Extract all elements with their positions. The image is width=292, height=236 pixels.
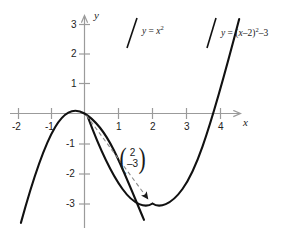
column-vector-annotation: ( 2 –3 ) <box>118 144 147 172</box>
vector-open-paren: ( <box>119 144 126 172</box>
y-tick-label--2: -2 <box>66 169 75 179</box>
x-tick-label-2: 2 <box>150 122 156 132</box>
x-axis-label: x <box>243 117 248 128</box>
curve-label-parabola-1: y = x2 <box>142 27 164 37</box>
y-tick-label--3: -3 <box>66 199 75 209</box>
right-label-leader <box>207 18 216 48</box>
y-axis-label: y <box>94 10 99 21</box>
x-tick-label-4: 4 <box>218 122 224 132</box>
y-tick-label-2: 2 <box>71 49 77 59</box>
y-tick-label-1: 1 <box>71 79 77 89</box>
y-tick-label--1: -1 <box>66 139 75 149</box>
x-tick-label--1: -1 <box>45 122 54 132</box>
vector-bottom-value: –3 <box>127 158 138 169</box>
vector-values: 2 –3 <box>127 147 138 169</box>
vector-close-paren: ) <box>139 144 146 172</box>
x-tick-label-1: 1 <box>116 122 122 132</box>
left-label-leader <box>127 18 137 48</box>
graph-figure: -2 -1 1 2 3 4 3 2 1 -1 -2 -3 y x y = x2 … <box>0 0 292 236</box>
curve-y-equals-x-minus-2-squared-minus-3 <box>88 19 239 206</box>
y-tick-label-3: 3 <box>71 20 77 30</box>
x-tick-label-3: 3 <box>184 122 190 132</box>
vector-top-value: 2 <box>130 147 136 158</box>
x-tick-label--2: -2 <box>12 122 21 132</box>
curve-label-parabola-2: y = (x–2)2–3 <box>221 29 268 39</box>
